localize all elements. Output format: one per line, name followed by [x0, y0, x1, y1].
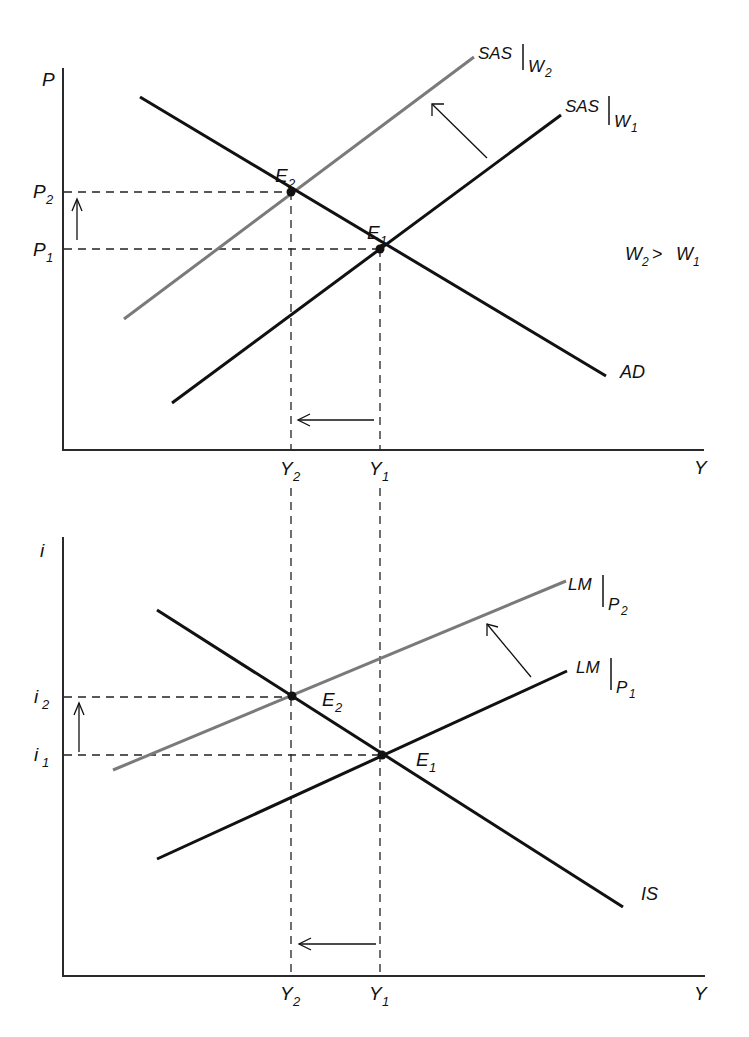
svg-text:Y: Y: [280, 458, 294, 479]
y2-tick-label-bottom: Y 2: [280, 983, 301, 1009]
svg-text:Y: Y: [369, 983, 383, 1004]
svg-text:2: 2: [45, 192, 54, 207]
svg-text:1: 1: [382, 994, 389, 1009]
svg-text:P: P: [608, 595, 620, 614]
sas-w1-label: SAS W 1: [565, 96, 638, 135]
svg-text:Y: Y: [369, 458, 383, 479]
ad-sas-islm-diagram: P Y P 2 P 1: [0, 0, 749, 1037]
svg-text:1: 1: [629, 687, 636, 701]
svg-text:1: 1: [42, 755, 49, 770]
svg-text:P: P: [33, 181, 46, 202]
bottom-x-axis-label: Y: [694, 983, 708, 1004]
e2-label-bottom: E 2: [322, 689, 343, 715]
svg-text:E: E: [275, 165, 288, 186]
svg-text:Y: Y: [280, 983, 294, 1004]
svg-text:2: 2: [544, 66, 552, 80]
svg-text:1: 1: [380, 233, 387, 248]
svg-text:LM: LM: [568, 575, 592, 594]
top-panel-ad-sas: P Y P 2 P 1: [33, 44, 708, 976]
svg-text:2: 2: [620, 604, 628, 618]
svg-text:2: 2: [292, 469, 301, 484]
i2-tick-label: i 2: [34, 686, 50, 712]
lm-p1-label: LM P 1: [576, 658, 636, 701]
svg-text:W: W: [528, 57, 546, 76]
svg-text:1: 1: [382, 469, 389, 484]
svg-text:1: 1: [429, 760, 436, 775]
is-label: IS: [641, 884, 658, 904]
svg-text:i: i: [34, 686, 39, 707]
p2-tick-label: P 2: [33, 181, 54, 207]
e2-label-top: E 2: [275, 165, 296, 191]
svg-text:W: W: [614, 112, 632, 131]
ad-label: AD: [619, 362, 645, 382]
e1-label-top: E 1: [367, 222, 387, 248]
svg-text:SAS: SAS: [478, 44, 513, 63]
y2-tick-label-top: Y 2: [280, 458, 301, 484]
svg-text:2: 2: [287, 176, 296, 191]
y1-tick-label-top: Y 1: [369, 458, 389, 484]
i1-tick-label: i 1: [34, 744, 49, 770]
sas-w2-curve: [124, 57, 474, 319]
svg-text:1: 1: [631, 121, 638, 135]
sas-w1-curve: [172, 115, 561, 403]
svg-text:AD: AD: [619, 362, 645, 382]
lm-p2-label: LM P 2: [568, 575, 628, 618]
svg-text:IS: IS: [641, 884, 658, 904]
bottom-panel-is-lm: i Y i 2 i 1 Y 2: [34, 537, 708, 1009]
svg-text:2: 2: [334, 700, 343, 715]
sas-shift-arrow: [432, 104, 487, 158]
bottom-y-axis-label: i: [40, 540, 45, 561]
svg-text:2: 2: [41, 697, 50, 712]
top-x-axis-label: Y: [694, 457, 708, 478]
lm-p2-curve: [113, 581, 566, 770]
p1-tick-label: P 1: [33, 239, 53, 265]
e2-point-bottom: [288, 692, 297, 701]
svg-text:P: P: [616, 678, 628, 697]
svg-text:E: E: [367, 222, 380, 243]
svg-text:LM: LM: [576, 658, 600, 677]
svg-text:i: i: [34, 744, 39, 765]
svg-text:2: 2: [292, 994, 301, 1009]
svg-text:E: E: [416, 749, 429, 770]
sas-w2-label: SAS W 2: [478, 44, 552, 80]
svg-text:2: 2: [641, 255, 649, 269]
svg-text:1: 1: [693, 255, 700, 269]
svg-text:SAS: SAS: [565, 97, 600, 116]
svg-text:>: >: [652, 244, 663, 264]
svg-text:1: 1: [46, 250, 53, 265]
svg-text:E: E: [322, 689, 335, 710]
top-y-axis-label: P: [42, 69, 55, 90]
e1-point-bottom: [378, 751, 387, 760]
y1-tick-label-bottom: Y 1: [369, 983, 389, 1009]
lm-shift-arrow: [487, 624, 531, 677]
e1-label-bottom: E 1: [416, 749, 436, 775]
wage-comparison-annotation: W 2 > W 1: [625, 244, 700, 269]
svg-text:P: P: [33, 239, 46, 260]
